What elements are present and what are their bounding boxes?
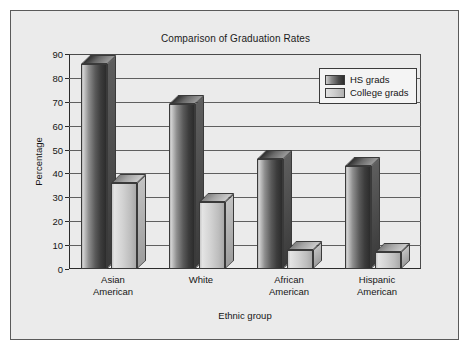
x-axis-category-line: American: [245, 286, 333, 298]
x-axis-category-label: AfricanAmerican: [245, 274, 333, 298]
y-axis-tick-label: 50: [52, 144, 63, 155]
y-axis-tick-mark: [65, 102, 69, 103]
bar-side-face: [225, 194, 234, 269]
bar-front-face: [375, 252, 401, 269]
bar-front-face: [199, 202, 225, 269]
y-axis-tick-label: 40: [52, 168, 63, 179]
y-axis-tick-mark: [65, 173, 69, 174]
bar-hs-grads: [257, 159, 283, 269]
legend-item-label: College grads: [350, 87, 409, 98]
bar-front-face: [111, 183, 137, 269]
bar-hs-grads: [81, 64, 107, 269]
y-axis-tick-label: 20: [52, 216, 63, 227]
bar-college-grads: [199, 202, 225, 269]
x-axis-category-line: American: [333, 286, 421, 298]
chart-figure: Comparison of Graduation Rates Percentag…: [10, 10, 459, 340]
y-axis-label-text: Percentage: [33, 137, 44, 186]
y-axis-tick-mark: [65, 269, 69, 270]
y-axis-label: Percentage: [31, 54, 45, 269]
legend-item-college-grads: College grads: [325, 86, 409, 99]
y-axis-tick-label: 80: [52, 72, 63, 83]
y-axis-tick-label: 30: [52, 192, 63, 203]
gridline: [69, 150, 421, 151]
bar-front-face: [169, 104, 195, 269]
x-axis-category-line: Asian: [69, 274, 157, 286]
legend-item-hs-grads: HS grads: [325, 73, 409, 86]
x-axis-category-line: White: [157, 274, 245, 286]
x-axis-category-label: HispanicAmerican: [333, 274, 421, 298]
y-axis-tick-label: 10: [52, 240, 63, 251]
x-axis-category-line: American: [69, 286, 157, 298]
bar-college-grads: [111, 183, 137, 269]
y-axis-tick-mark: [65, 245, 69, 246]
x-axis-label: Ethnic group: [69, 310, 421, 321]
chart-title: Comparison of Graduation Rates: [11, 33, 460, 44]
bar-side-face: [137, 175, 146, 269]
bar-front-face: [81, 64, 107, 269]
x-axis-category-label: White: [157, 274, 245, 286]
bar-college-grads: [375, 252, 401, 269]
dark-gradient-swatch: [325, 75, 345, 85]
y-axis-tick-mark: [65, 197, 69, 198]
bar-front-face: [287, 250, 313, 269]
x-axis-category-line: African: [245, 274, 333, 286]
light-gradient-swatch: [325, 88, 345, 98]
y-axis-tick-label: 0: [58, 264, 63, 275]
bar-hs-grads: [345, 166, 371, 269]
gridline: [69, 126, 421, 127]
legend-item-label: HS grads: [350, 74, 390, 85]
y-axis-tick-label: 90: [52, 49, 63, 60]
y-axis-tick-label: 60: [52, 120, 63, 131]
y-axis-tick-mark: [65, 54, 69, 55]
bar-front-face: [345, 166, 371, 269]
chart-legend: HS gradsCollege grads: [319, 68, 417, 104]
y-axis-tick-label: 70: [52, 96, 63, 107]
y-axis-tick-mark: [65, 126, 69, 127]
bar-college-grads: [287, 250, 313, 269]
bar-front-face: [257, 159, 283, 269]
x-axis-category-label: AsianAmerican: [69, 274, 157, 298]
y-axis-tick-mark: [65, 150, 69, 151]
y-axis-tick-mark: [65, 78, 69, 79]
x-axis-category-line: Hispanic: [333, 274, 421, 286]
bar-hs-grads: [169, 104, 195, 269]
y-axis-tick-mark: [65, 221, 69, 222]
